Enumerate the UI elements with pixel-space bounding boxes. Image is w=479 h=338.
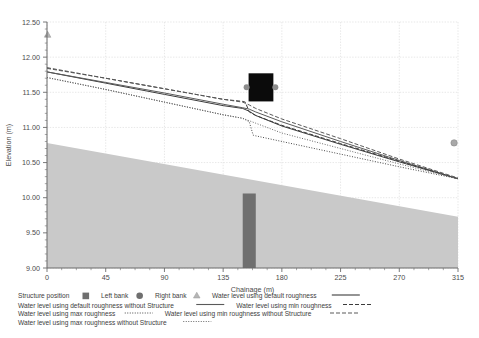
legend-label: Water level using min roughness without … [165, 310, 312, 318]
legend-label: Water level using max roughness [18, 310, 116, 318]
y-tick-label: 10.50 [22, 158, 40, 167]
y-tick-label: 10.00 [22, 193, 40, 202]
x-tick-label: 180 [276, 273, 288, 282]
y-tick-label: 12.50 [22, 18, 40, 27]
legend-label: Right bank [155, 292, 187, 300]
y-tick-label: 11.00 [23, 123, 40, 132]
x-tick-label: 315 [452, 273, 464, 282]
y-axis-title: Elevation (m) [4, 124, 13, 166]
x-tick-label: 270 [393, 273, 405, 282]
structure-position-bar [243, 193, 256, 268]
legend-label: Water level using max roughness without … [18, 319, 167, 327]
x-tick-label: 225 [335, 273, 347, 282]
legend-label: Water level using default roughness [212, 292, 317, 300]
bank-marker [451, 140, 457, 146]
black-overlay-box [244, 73, 279, 101]
y-tick-label: 11.50 [23, 88, 40, 97]
y-tick-label: 12.00 [22, 53, 40, 62]
y-tick-label: 9.50 [26, 228, 40, 237]
legend-swatch-triangle [193, 292, 200, 298]
legend: Structure positionLeft bankRight bankWat… [18, 292, 371, 327]
legend-label: Structure position [18, 292, 70, 300]
x-tick-label: 45 [102, 273, 110, 282]
chart-svg: 045901351802252703159.009.5010.0010.5011… [0, 0, 479, 338]
y-tick-label: 9.00 [26, 264, 40, 273]
legend-label: Left bank [101, 292, 129, 299]
x-tick-label: 90 [160, 273, 168, 282]
legend-swatch-square [83, 293, 90, 300]
legend-label: Water level using default roughness with… [18, 302, 174, 310]
x-tick-label: 0 [45, 273, 49, 282]
legend-swatch-circle [136, 293, 143, 300]
x-tick-label: 135 [217, 273, 229, 282]
chart-container: 045901351802252703159.009.5010.0010.5011… [0, 0, 479, 338]
legend-label: Water level using min roughness [236, 302, 332, 310]
